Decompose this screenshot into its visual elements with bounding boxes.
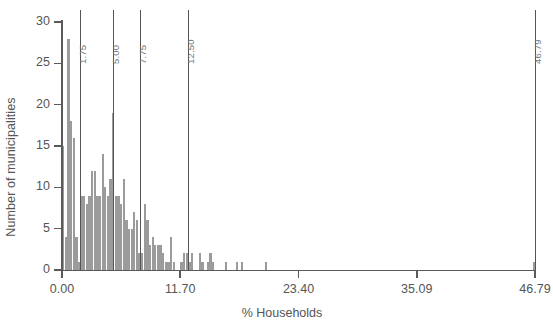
- y-axis-title: Number of municipalities: [0, 0, 22, 334]
- y-tick-label: 30: [10, 14, 50, 28]
- y-tick: [54, 145, 62, 147]
- x-tick-label: 35.09: [401, 282, 432, 296]
- x-tick: [179, 270, 181, 278]
- plot-area: 1.755.007.7512.5046.79: [62, 22, 535, 270]
- y-tick: [54, 63, 62, 65]
- y-tick-label: 25: [10, 55, 50, 69]
- x-tick: [298, 270, 300, 278]
- reference-line-label: 46.79: [532, 39, 543, 64]
- x-axis-title: % Households: [62, 306, 502, 320]
- reference-line-label: 1.75: [77, 45, 88, 64]
- reference-line-label: 5.00: [110, 45, 121, 64]
- reference-line-label: 7.75: [137, 45, 148, 64]
- y-tick-label: 10: [10, 179, 50, 193]
- y-tick: [54, 21, 62, 23]
- x-tick-label: 0.00: [50, 282, 74, 296]
- y-tick-label: 15: [10, 138, 50, 152]
- x-tick: [534, 270, 536, 278]
- y-tick-label: 5: [10, 221, 50, 235]
- x-tick: [416, 270, 418, 278]
- y-tick: [54, 187, 62, 189]
- x-tick: [61, 270, 63, 278]
- x-tick-label: 46.79: [519, 282, 550, 296]
- y-tick: [54, 104, 62, 106]
- y-tick: [54, 228, 62, 230]
- y-tick-label: 0: [10, 262, 50, 276]
- x-tick-label: 23.40: [283, 282, 314, 296]
- histogram-bar: [191, 253, 193, 270]
- histogram-chart: Number of municipalities 1.755.007.7512.…: [0, 0, 553, 334]
- histogram-bars: [62, 22, 535, 270]
- x-tick-label: 11.70: [165, 282, 195, 296]
- reference-line-label: 12.50: [185, 39, 196, 64]
- y-tick-label: 20: [10, 97, 50, 111]
